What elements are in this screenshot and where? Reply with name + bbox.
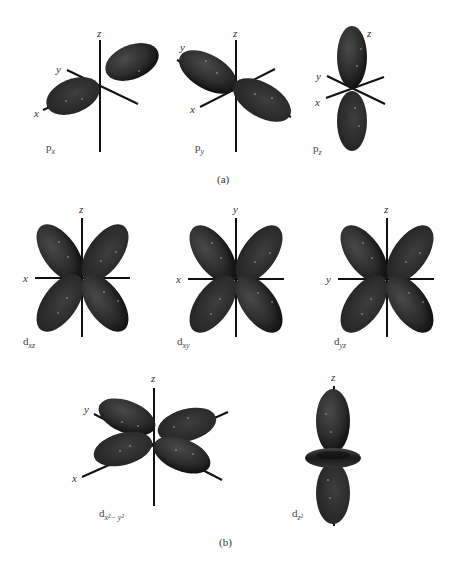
z-axis-label: z — [78, 203, 84, 215]
orbital-py: z y x py — [172, 27, 298, 156]
lobe — [337, 91, 367, 151]
y-axis-label: y — [325, 273, 331, 285]
orbital-label-py: py — [195, 141, 205, 156]
orbital-label-dxz: dxz — [23, 335, 36, 350]
y-axis-label: y — [232, 203, 238, 215]
y-axis-label: y — [83, 403, 89, 415]
x-axis-label: x — [33, 107, 39, 119]
y-axis-label: y — [179, 41, 185, 53]
x-axis-label: x — [314, 96, 320, 108]
x-axis-label: x — [175, 273, 181, 285]
orbital-px: z y x px — [33, 27, 164, 156]
orbital-dxz: z x dxz — [22, 203, 138, 350]
orbital-label-dx2-y2: dx²− y² — [99, 507, 124, 522]
orbital-label-px: px — [46, 141, 56, 156]
orbital-label-pz: pz — [313, 142, 323, 157]
y-axis-label: y — [315, 70, 321, 82]
orbital-figure: z y x px z y x py z y x pz (a) — [0, 0, 451, 565]
z-axis-label: z — [96, 27, 102, 39]
orbital-label-dxy: dxy — [177, 335, 190, 350]
z-axis-label: z — [232, 27, 238, 39]
lobe — [316, 462, 350, 524]
x-axis-label: x — [22, 272, 28, 284]
x-axis-label: x — [189, 103, 195, 115]
caption-a: (a) — [217, 173, 230, 186]
caption-b: (b) — [219, 536, 232, 549]
lobe — [41, 70, 106, 123]
z-axis-label: z — [330, 371, 336, 383]
lobe — [100, 36, 165, 89]
orbital-dxy: y x dxy — [175, 203, 292, 350]
z-axis-label: z — [150, 372, 156, 384]
orbital-pz: z y x pz — [313, 26, 385, 157]
x-axis-label: x — [71, 472, 77, 484]
lobe — [316, 389, 350, 453]
z-axis-label: z — [383, 203, 389, 215]
orbital-dyz: z y dyz — [325, 203, 443, 350]
orbital-label-dz2: dz² — [292, 507, 304, 522]
z-axis-label: z — [366, 27, 372, 39]
lobe — [337, 26, 367, 88]
y-axis-label: y — [55, 63, 61, 75]
orbital-dz2: z dz² — [292, 371, 361, 526]
orbital-label-dyz: dyz — [334, 335, 347, 350]
orbital-dx2-y2: z y x dx²− y² — [71, 372, 228, 522]
